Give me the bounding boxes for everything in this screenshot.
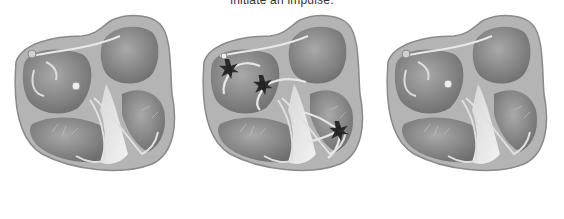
heart-panel-ectopic: A B C (190, 14, 378, 174)
heart-panel-normal-2 (374, 14, 562, 174)
focus-label-a: A (225, 64, 232, 75)
heart-illustration-2 (374, 14, 562, 174)
sa-node-icon (402, 50, 410, 58)
focus-label-c: C (335, 126, 342, 137)
figure-caption: initiate an impulse. (0, 0, 564, 7)
av-node-icon (72, 82, 80, 90)
heart-illustration-ectopic: A B C (190, 14, 378, 174)
heart-illustration (2, 14, 190, 174)
focus-label-b: B (259, 80, 266, 91)
av-node-icon (444, 80, 452, 88)
heart-panel-normal (2, 14, 190, 174)
sa-node-icon (28, 50, 36, 58)
